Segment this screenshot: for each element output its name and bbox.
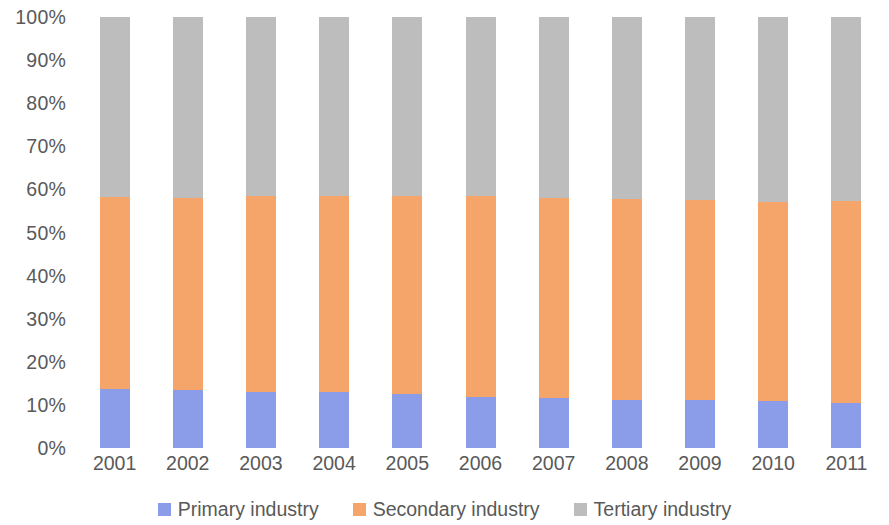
legend-swatch-icon bbox=[353, 503, 366, 516]
bar-segment-primary-industry[interactable] bbox=[173, 390, 203, 448]
legend-swatch-icon bbox=[158, 503, 171, 516]
legend-item[interactable]: Secondary industry bbox=[353, 498, 540, 521]
bar-column[interactable] bbox=[758, 17, 788, 448]
x-axis-tick-label: 2005 bbox=[386, 452, 429, 475]
y-axis-tick-label: 70% bbox=[26, 135, 66, 158]
bar-segment-secondary-industry[interactable] bbox=[758, 202, 788, 401]
x-axis-tick-label: 2009 bbox=[678, 452, 721, 475]
y-axis-tick-label: 20% bbox=[26, 350, 66, 373]
bar-segment-tertiary-industry[interactable] bbox=[246, 17, 276, 196]
bar-column[interactable] bbox=[100, 17, 130, 448]
bar-column[interactable] bbox=[319, 17, 349, 448]
bar-segment-tertiary-industry[interactable] bbox=[539, 17, 569, 198]
bar-segment-tertiary-industry[interactable] bbox=[685, 17, 715, 200]
x-axis: 2001200220032004200520062007200820092010… bbox=[78, 452, 883, 482]
x-axis-tick-label: 2004 bbox=[312, 452, 355, 475]
bar-column[interactable] bbox=[831, 17, 861, 448]
bar-segment-secondary-industry[interactable] bbox=[612, 199, 642, 400]
bar-segment-primary-industry[interactable] bbox=[831, 403, 861, 448]
y-axis-tick-label: 60% bbox=[26, 178, 66, 201]
y-axis-tick-label: 10% bbox=[26, 393, 66, 416]
bar-column[interactable] bbox=[246, 17, 276, 448]
bar-segment-tertiary-industry[interactable] bbox=[392, 17, 422, 196]
x-axis-tick-label: 2006 bbox=[459, 452, 502, 475]
legend-item[interactable]: Primary industry bbox=[158, 498, 319, 521]
bar-segment-primary-industry[interactable] bbox=[319, 392, 349, 448]
x-axis-tick-label: 2011 bbox=[825, 452, 867, 475]
stacked-bar-chart: 100%90%80%70%60%50%40%30%20%10%0% 200120… bbox=[0, 0, 889, 525]
x-axis-tick-label: 2003 bbox=[239, 452, 282, 475]
bar-column[interactable] bbox=[685, 17, 715, 448]
bar-segment-secondary-industry[interactable] bbox=[392, 196, 422, 394]
plot-area bbox=[78, 17, 883, 448]
bar-segment-primary-industry[interactable] bbox=[100, 389, 130, 448]
y-axis-tick-label: 40% bbox=[26, 264, 66, 287]
bar-column[interactable] bbox=[392, 17, 422, 448]
bar-segment-primary-industry[interactable] bbox=[758, 401, 788, 448]
bar-segment-secondary-industry[interactable] bbox=[319, 196, 349, 392]
bar-segment-primary-industry[interactable] bbox=[539, 398, 569, 448]
legend-item-label: Secondary industry bbox=[373, 498, 540, 521]
y-axis-tick-label: 30% bbox=[26, 307, 66, 330]
chart-legend: Primary industrySecondary industryTertia… bbox=[0, 498, 889, 521]
x-axis-tick-label: 2008 bbox=[605, 452, 648, 475]
bar-segment-primary-industry[interactable] bbox=[246, 392, 276, 448]
legend-item-label: Tertiary industry bbox=[594, 498, 732, 521]
x-axis-tick-label: 2001 bbox=[93, 452, 136, 475]
bar-segment-tertiary-industry[interactable] bbox=[319, 17, 349, 196]
bar-segment-secondary-industry[interactable] bbox=[831, 201, 861, 403]
legend-item-label: Primary industry bbox=[178, 498, 319, 521]
bar-segment-tertiary-industry[interactable] bbox=[100, 17, 130, 197]
bar-segment-tertiary-industry[interactable] bbox=[173, 17, 203, 198]
bar-segment-secondary-industry[interactable] bbox=[173, 198, 203, 390]
bar-column[interactable] bbox=[539, 17, 569, 448]
bar-column[interactable] bbox=[173, 17, 203, 448]
bar-segment-tertiary-industry[interactable] bbox=[831, 17, 861, 201]
y-axis-tick-label: 100% bbox=[15, 6, 66, 29]
x-axis-tick-label: 2007 bbox=[532, 452, 575, 475]
x-axis-tick-label: 2002 bbox=[166, 452, 209, 475]
legend-item[interactable]: Tertiary industry bbox=[574, 498, 732, 521]
bar-segment-primary-industry[interactable] bbox=[466, 397, 496, 448]
y-axis: 100%90%80%70%60%50%40%30%20%10%0% bbox=[0, 0, 72, 470]
bar-segment-primary-industry[interactable] bbox=[612, 400, 642, 448]
bar-segment-tertiary-industry[interactable] bbox=[758, 17, 788, 202]
y-axis-tick-label: 50% bbox=[26, 221, 66, 244]
bar-segment-tertiary-industry[interactable] bbox=[466, 17, 496, 196]
x-axis-tick-label: 2010 bbox=[752, 452, 795, 475]
y-axis-tick-label: 80% bbox=[26, 92, 66, 115]
bar-column[interactable] bbox=[612, 17, 642, 448]
bar-column[interactable] bbox=[466, 17, 496, 448]
y-axis-tick-label: 90% bbox=[26, 49, 66, 72]
bar-segment-secondary-industry[interactable] bbox=[100, 197, 130, 389]
bar-segment-primary-industry[interactable] bbox=[685, 400, 715, 448]
bar-segment-primary-industry[interactable] bbox=[392, 394, 422, 448]
bar-segment-secondary-industry[interactable] bbox=[539, 198, 569, 398]
bar-segment-secondary-industry[interactable] bbox=[246, 196, 276, 392]
bar-segment-tertiary-industry[interactable] bbox=[612, 17, 642, 199]
bar-segment-secondary-industry[interactable] bbox=[685, 200, 715, 400]
legend-swatch-icon bbox=[574, 503, 587, 516]
bar-segment-secondary-industry[interactable] bbox=[466, 196, 496, 397]
y-axis-tick-label: 0% bbox=[37, 437, 66, 460]
